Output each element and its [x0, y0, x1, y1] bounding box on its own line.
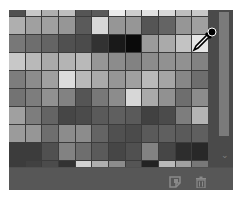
swatch[interactable] [76, 89, 92, 106]
swatch[interactable] [26, 35, 42, 52]
swatch[interactable] [76, 125, 92, 142]
swatch[interactable] [176, 10, 192, 16]
swatch[interactable] [159, 17, 175, 34]
swatch[interactable] [109, 125, 125, 142]
swatch[interactable] [176, 53, 192, 70]
swatch[interactable] [142, 53, 158, 70]
swatch[interactable] [9, 143, 25, 160]
swatch[interactable] [142, 17, 158, 34]
swatch[interactable] [126, 89, 142, 106]
swatch[interactable] [109, 89, 125, 106]
swatch[interactable] [126, 125, 142, 142]
swatch[interactable] [9, 35, 25, 52]
swatch[interactable] [176, 17, 192, 34]
swatch[interactable] [26, 10, 42, 16]
swatch[interactable] [176, 35, 192, 52]
swatch[interactable] [92, 125, 108, 142]
swatch[interactable] [192, 125, 208, 142]
swatch[interactable] [142, 10, 158, 16]
swatch[interactable] [92, 71, 108, 88]
swatch[interactable] [159, 143, 175, 160]
swatch[interactable] [92, 143, 108, 160]
scrollbar-thumb[interactable] [219, 12, 229, 136]
swatch[interactable] [109, 35, 125, 52]
swatch[interactable] [42, 35, 58, 52]
swatch[interactable] [176, 89, 192, 106]
swatch[interactable] [159, 10, 175, 16]
swatch[interactable] [59, 17, 75, 34]
swatch[interactable] [126, 35, 142, 52]
swatch[interactable] [176, 107, 192, 124]
swatch[interactable] [59, 53, 75, 70]
swatch[interactable] [192, 71, 208, 88]
swatch[interactable] [76, 10, 92, 16]
swatch[interactable] [126, 17, 142, 34]
swatch[interactable] [192, 143, 208, 160]
swatch[interactable] [159, 89, 175, 106]
swatch[interactable] [26, 107, 42, 124]
swatch[interactable] [142, 35, 158, 52]
swatch[interactable] [59, 10, 75, 16]
swatch[interactable] [42, 71, 58, 88]
swatch[interactable] [176, 71, 192, 88]
swatch[interactable] [142, 107, 158, 124]
swatch[interactable] [92, 53, 108, 70]
swatch[interactable] [9, 125, 25, 142]
swatch[interactable] [159, 53, 175, 70]
swatch[interactable] [92, 10, 108, 16]
swatch[interactable] [192, 53, 208, 70]
swatch[interactable] [59, 107, 75, 124]
swatch[interactable] [92, 107, 108, 124]
swatch[interactable] [92, 89, 108, 106]
swatch[interactable] [159, 125, 175, 142]
swatch[interactable] [9, 89, 25, 106]
swatch[interactable] [9, 53, 25, 70]
swatch[interactable] [192, 10, 208, 16]
swatch[interactable] [159, 71, 175, 88]
swatch[interactable] [42, 89, 58, 106]
swatch[interactable] [126, 53, 142, 70]
swatch[interactable] [76, 53, 92, 70]
swatch[interactable] [42, 17, 58, 34]
swatch[interactable] [176, 143, 192, 160]
swatch[interactable] [192, 35, 208, 52]
swatch[interactable] [142, 143, 158, 160]
swatch[interactable] [92, 35, 108, 52]
swatch[interactable] [109, 17, 125, 34]
swatch[interactable] [192, 107, 208, 124]
swatch[interactable] [126, 143, 142, 160]
swatch[interactable] [76, 35, 92, 52]
scrollbar[interactable]: ⌄ [208, 10, 233, 167]
swatch[interactable] [9, 10, 25, 16]
swatch[interactable] [92, 17, 108, 34]
delete-swatch-button[interactable] [195, 174, 207, 186]
swatch[interactable] [59, 35, 75, 52]
swatch[interactable] [59, 125, 75, 142]
swatch[interactable] [159, 107, 175, 124]
swatch[interactable] [142, 125, 158, 142]
swatch[interactable] [192, 89, 208, 106]
swatch[interactable] [142, 71, 158, 88]
swatch[interactable] [26, 53, 42, 70]
swatch[interactable] [192, 17, 208, 34]
swatch[interactable] [76, 17, 92, 34]
swatch[interactable] [26, 125, 42, 142]
swatch[interactable] [9, 71, 25, 88]
swatch[interactable] [26, 89, 42, 106]
swatch[interactable] [109, 10, 125, 16]
swatch[interactable] [159, 35, 175, 52]
swatch[interactable] [42, 125, 58, 142]
swatch[interactable] [9, 17, 25, 34]
swatch[interactable] [126, 71, 142, 88]
chevron-down-icon[interactable]: ⌄ [220, 150, 230, 160]
swatch[interactable] [76, 107, 92, 124]
swatch[interactable] [109, 107, 125, 124]
swatch[interactable] [109, 53, 125, 70]
swatch[interactable] [76, 71, 92, 88]
new-swatch-button[interactable] [169, 174, 181, 186]
swatch[interactable] [42, 107, 58, 124]
swatch[interactable] [109, 71, 125, 88]
swatch[interactable] [42, 53, 58, 70]
swatch[interactable] [59, 71, 75, 88]
swatch[interactable] [9, 107, 25, 124]
